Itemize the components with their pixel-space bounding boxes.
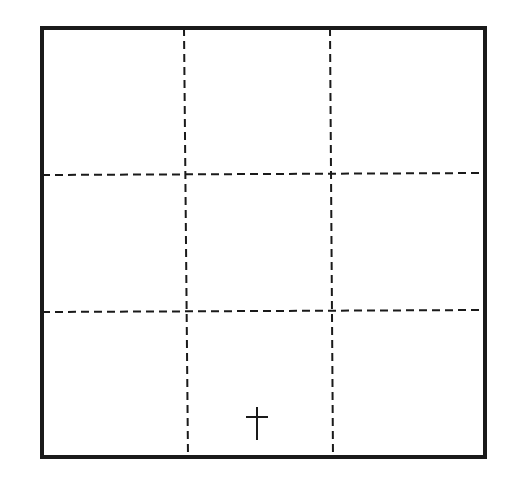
grid-lines xyxy=(42,28,485,457)
outer-frame xyxy=(42,28,485,457)
vertical-dashed-line-2 xyxy=(330,28,333,457)
cross-icon xyxy=(246,407,268,440)
vertical-dashed-line-1 xyxy=(184,28,188,457)
horizontal-dashed-line-2 xyxy=(42,310,485,312)
grid-diagram xyxy=(0,0,509,489)
horizontal-dashed-line-1 xyxy=(42,173,485,175)
